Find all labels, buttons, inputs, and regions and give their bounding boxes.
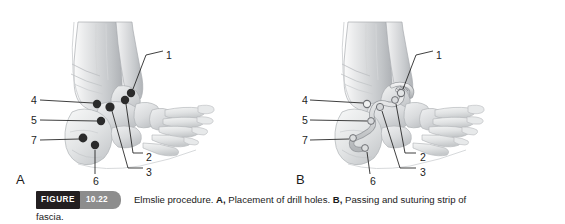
drill-hole-2 (121, 96, 129, 104)
drill-hole-5 (97, 117, 105, 125)
callout-b-7: 7 (302, 135, 308, 146)
callout-b-2: 2 (420, 152, 426, 163)
panel-b-artwork (310, 22, 484, 174)
figure-badge-number: 10.22 (80, 191, 121, 209)
drill-hole-3 (376, 103, 383, 110)
drill-hole-3 (105, 102, 114, 111)
drill-hole-4 (93, 100, 101, 108)
callout-b-4: 4 (302, 95, 308, 106)
drill-hole-6 (362, 145, 369, 152)
figure-container: A B 1 2 3 4 5 7 6 1 2 3 4 5 7 6 FIGURE 1… (0, 0, 565, 223)
drill-hole-1 (397, 89, 404, 96)
caption-label-a: A, (216, 194, 226, 205)
drill-hole-6 (91, 141, 99, 149)
figure-badge-label: FIGURE (36, 191, 80, 209)
callout-b-5: 5 (302, 115, 308, 126)
callout-b-6: 6 (370, 176, 376, 187)
figure-caption: FIGURE 10.22 Elmslie procedure. A, Place… (36, 191, 544, 223)
caption-segment-1: Elmslie procedure. (134, 194, 216, 205)
caption-segment-3: Passing and suturing strip of (342, 194, 466, 205)
callout-b-1: 1 (436, 50, 442, 61)
caption-first-line: FIGURE 10.22 Elmslie procedure. A, Place… (36, 191, 544, 209)
panel-letter-b: B (296, 172, 305, 187)
caption-segment-2: Placement of drill holes. (226, 194, 333, 205)
callout-a-7: 7 (31, 135, 37, 146)
callout-a-4: 4 (31, 95, 37, 106)
drill-hole-7 (79, 134, 88, 143)
drill-hole-7 (350, 135, 357, 142)
panel-letter-a: A (16, 172, 25, 187)
callout-b-3: 3 (420, 167, 426, 178)
callout-a-6: 6 (93, 176, 99, 187)
drill-hole-2 (392, 97, 399, 104)
callout-a-3: 3 (146, 167, 152, 178)
callout-a-2: 2 (146, 152, 152, 163)
anatomical-illustration (0, 0, 565, 190)
drill-hole-5 (368, 118, 375, 125)
drill-hole-1 (127, 89, 135, 97)
drill-hole-4 (363, 100, 370, 107)
callout-a-5: 5 (31, 115, 37, 126)
cuboid (111, 126, 141, 148)
caption-text-line-1: Elmslie procedure. A, Placement of drill… (134, 193, 466, 207)
panel-a-artwork (40, 22, 214, 174)
callout-a-1: 1 (166, 50, 172, 61)
calcaneus (65, 109, 112, 165)
caption-label-b: B, (333, 194, 343, 205)
caption-text-line-2: fascia. (36, 210, 544, 224)
cuboid (381, 126, 411, 148)
